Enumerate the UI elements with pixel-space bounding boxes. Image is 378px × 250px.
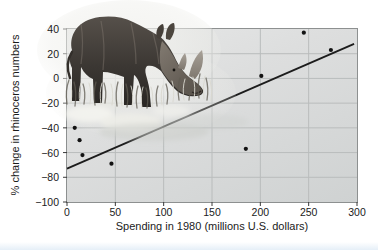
y-tick-label: −40: [41, 122, 59, 134]
y-tick-label: −100: [35, 196, 59, 208]
rhino-spending-scatter-figure: % change in rhinoceros numbers: [0, 0, 378, 250]
x-tick-label: 150: [203, 206, 221, 218]
y-tick-label: 40: [47, 23, 59, 35]
data-point: [259, 74, 263, 78]
x-axis-title: Spending in 1980 (millions U.S. dollars): [67, 220, 357, 232]
x-tick-label: 300: [348, 206, 366, 218]
x-tick-label: 0: [64, 206, 70, 218]
data-point: [109, 162, 113, 166]
y-axis-title: % change in rhinoceros numbers: [9, 35, 21, 196]
rhinoceros-image: [59, 8, 219, 145]
rhino-eye: [173, 69, 176, 72]
y-tick-label: −80: [41, 171, 59, 183]
x-tick-label: 200: [252, 206, 270, 218]
plot-area: [66, 28, 358, 203]
y-tick-label: −20: [41, 97, 59, 109]
data-point: [302, 31, 306, 35]
y-tick-label: 20: [47, 48, 59, 60]
y-tick-label: 0: [53, 72, 59, 84]
data-point: [80, 153, 84, 157]
x-tick-label: 250: [300, 206, 318, 218]
x-tick-label: 100: [155, 206, 173, 218]
y-tick-label: −60: [41, 147, 59, 159]
data-point: [244, 147, 248, 151]
x-tick-label: 50: [109, 206, 121, 218]
data-point: [329, 48, 333, 52]
